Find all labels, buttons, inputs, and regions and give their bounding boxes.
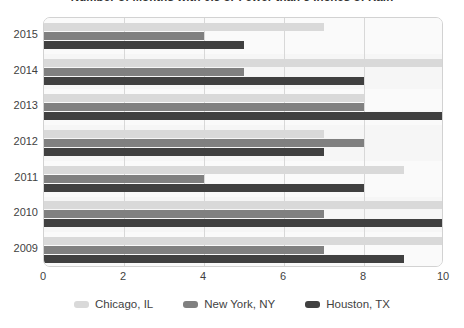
- legend-label: Houston, TX: [326, 298, 390, 310]
- x-axis: 0246810: [0, 270, 464, 286]
- legend-swatch-icon: [305, 301, 320, 308]
- bar: [44, 201, 443, 209]
- y-axis-label: 2011: [2, 172, 38, 183]
- bar: [44, 255, 404, 263]
- legend-item[interactable]: Chicago, IL: [74, 298, 153, 310]
- legend-item[interactable]: Houston, TX: [305, 298, 390, 310]
- y-axis-label: 2013: [2, 100, 38, 111]
- bar: [44, 246, 324, 254]
- chart-title: Number of Months with 0.5 or Fewer than …: [0, 0, 464, 3]
- x-axis-tick-label: 2: [108, 270, 138, 282]
- bar: [44, 166, 404, 174]
- y-axis-label: 2012: [2, 136, 38, 147]
- y-axis-label: 2010: [2, 207, 38, 218]
- bar: [44, 103, 364, 111]
- plot-area: [43, 17, 443, 267]
- bar: [44, 184, 364, 192]
- legend-label: Chicago, IL: [95, 298, 153, 310]
- chart-legend: Chicago, ILNew York, NYHouston, TX: [0, 298, 464, 310]
- y-axis-label: 2014: [2, 65, 38, 76]
- x-axis-tick-label: 8: [348, 270, 378, 282]
- bar: [44, 210, 324, 218]
- bar: [44, 32, 204, 40]
- bar: [44, 139, 364, 147]
- legend-swatch-icon: [183, 301, 198, 308]
- legend-label: New York, NY: [204, 298, 275, 310]
- bar: [44, 23, 324, 31]
- legend-item[interactable]: New York, NY: [183, 298, 275, 310]
- bar-chart: Number of Months with 0.5 or Fewer than …: [0, 0, 464, 328]
- bar: [44, 148, 324, 156]
- bar: [44, 94, 364, 102]
- bar: [44, 77, 364, 85]
- bar: [44, 130, 324, 138]
- bar: [44, 175, 204, 183]
- bar: [44, 41, 244, 49]
- gridline: [364, 18, 365, 266]
- y-axis-label: 2015: [2, 29, 38, 40]
- y-axis-label: 2009: [2, 243, 38, 254]
- x-axis-tick-label: 4: [188, 270, 218, 282]
- y-axis: 2015201420132012201120102009: [0, 17, 38, 267]
- bar: [44, 112, 443, 120]
- legend-swatch-icon: [74, 301, 89, 308]
- x-axis-tick-label: 0: [28, 270, 58, 282]
- bar: [44, 237, 443, 245]
- bar: [44, 68, 244, 76]
- x-axis-tick-label: 10: [428, 270, 458, 282]
- bar: [44, 59, 443, 67]
- bar: [44, 219, 443, 227]
- x-axis-tick-label: 6: [268, 270, 298, 282]
